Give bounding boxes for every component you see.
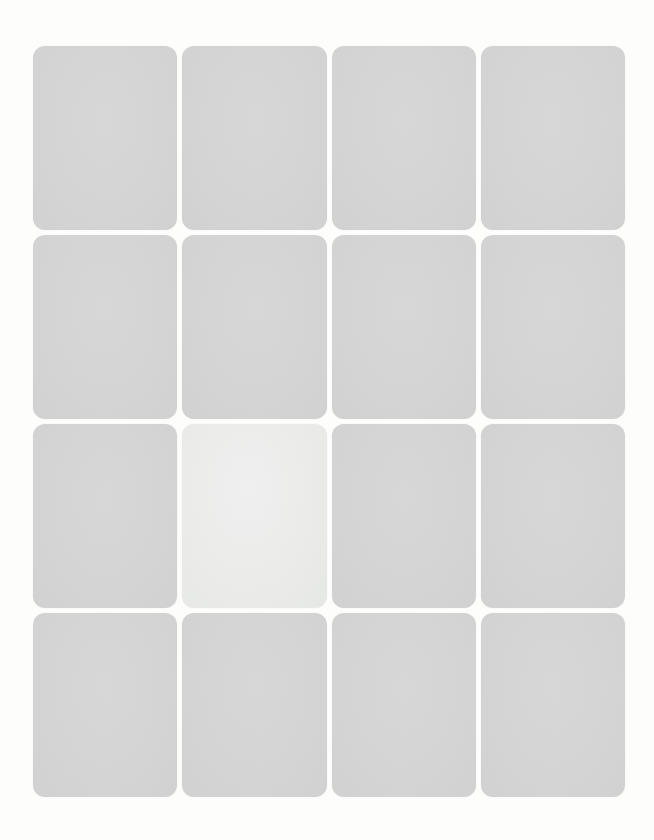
card-face-down[interactable] xyxy=(182,235,326,419)
card-face-down[interactable] xyxy=(332,424,476,608)
card-grid xyxy=(33,46,625,797)
card-face-down[interactable] xyxy=(182,613,326,797)
card-face-down[interactable] xyxy=(332,235,476,419)
card-face-down[interactable] xyxy=(332,613,476,797)
card-face-down[interactable] xyxy=(481,613,625,797)
card-face-down[interactable] xyxy=(182,46,326,230)
card-face-down[interactable] xyxy=(33,46,177,230)
card-face-down[interactable] xyxy=(481,46,625,230)
card-face-down[interactable] xyxy=(481,235,625,419)
card-face-down[interactable] xyxy=(33,235,177,419)
card-face-down[interactable] xyxy=(481,424,625,608)
card-face-up[interactable] xyxy=(182,424,326,608)
card-face-down[interactable] xyxy=(33,613,177,797)
card-face-down[interactable] xyxy=(332,46,476,230)
card-face-down[interactable] xyxy=(33,424,177,608)
